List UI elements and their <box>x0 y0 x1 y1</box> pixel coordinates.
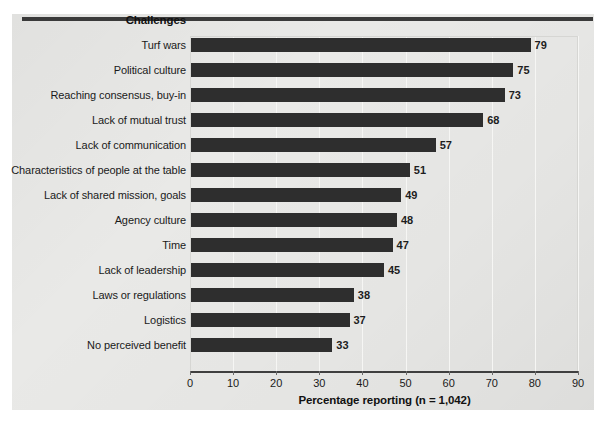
x-tick-label-90: 90 <box>563 377 593 389</box>
category-label: Lack of shared mission, goals <box>44 188 186 202</box>
gridline-90 <box>578 36 579 371</box>
x-tick-20 <box>276 371 277 375</box>
category-label: Agency culture <box>115 213 186 227</box>
category-label: Lack of communication <box>76 138 186 152</box>
x-axis-title: Percentage reporting (n = 1,042) <box>190 394 579 406</box>
x-tick-label-50: 50 <box>391 377 421 389</box>
column-header-challenges: Challenges <box>126 14 186 26</box>
x-axis-line <box>190 371 579 373</box>
category-label: Logistics <box>144 313 186 327</box>
x-tick-0 <box>190 371 191 375</box>
category-label: Time <box>162 238 186 252</box>
x-tick-30 <box>319 371 320 375</box>
category-label: No perceived benefit <box>87 338 186 352</box>
category-label: Reaching consensus, buy-in <box>50 88 186 102</box>
x-tick-label-30: 30 <box>304 377 334 389</box>
chart-figure: 79757368575149484745383733 Challenges Tu… <box>0 0 607 437</box>
x-tick-label-10: 10 <box>218 377 248 389</box>
x-tick-10 <box>233 371 234 375</box>
x-tick-50 <box>406 371 407 375</box>
x-tick-80 <box>535 371 536 375</box>
x-tick-label-20: 20 <box>261 377 291 389</box>
category-label: Lack of mutual trust <box>92 113 186 127</box>
category-label-column: Challenges Turf warsPolitical cultureRea… <box>0 36 186 371</box>
x-tick-60 <box>449 371 450 375</box>
category-label: Laws or regulations <box>93 288 187 302</box>
x-tick-label-40: 40 <box>347 377 377 389</box>
x-tick-label-0: 0 <box>175 377 205 389</box>
plot-frame-border <box>190 36 578 371</box>
x-tick-70 <box>492 371 493 375</box>
x-tick-label-70: 70 <box>477 377 507 389</box>
category-label: Lack of leadership <box>99 263 186 277</box>
x-tick-label-60: 60 <box>434 377 464 389</box>
category-label: Turf wars <box>141 38 186 52</box>
x-tick-label-80: 80 <box>520 377 550 389</box>
x-tick-90 <box>578 371 579 375</box>
category-label: Political culture <box>114 63 186 77</box>
top-rule-divider <box>22 17 593 21</box>
x-tick-40 <box>362 371 363 375</box>
category-label: Characteristics of people at the table <box>11 163 186 177</box>
